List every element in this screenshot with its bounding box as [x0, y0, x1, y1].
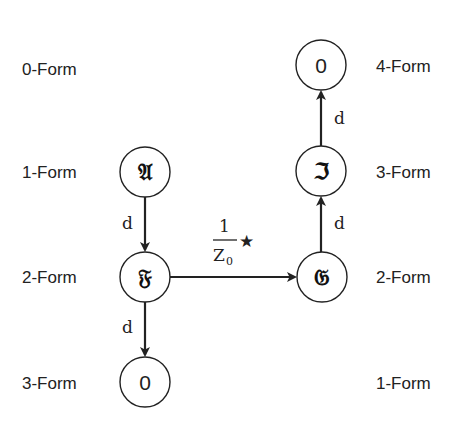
right-label-1-form: 1-Form — [376, 374, 431, 393]
fraction-subscript: 0 — [226, 255, 233, 268]
left-label-2-form: 2-Form — [22, 268, 77, 287]
node-zero-bottom-symbol: 0 — [139, 371, 151, 394]
node-zero-bottom: 0 — [120, 357, 170, 407]
right-label-4-form: 4-Form — [376, 57, 431, 76]
node-I: ℑ — [296, 146, 346, 196]
node-A: 𝔄 — [120, 147, 170, 197]
node-zero-top-symbol: 0 — [315, 54, 327, 77]
node-I-symbol: ℑ — [313, 158, 329, 184]
differential-forms-diagram: 0-Form 1-Form 2-Form 3-Form 4-Form 3-For… — [0, 0, 464, 425]
left-label-1-form: 1-Form — [22, 163, 77, 182]
edge-label-d-I-zero: d — [334, 108, 345, 128]
edge-label-d-G-I: d — [334, 213, 345, 233]
edge-label-d-A-F: d — [122, 213, 133, 233]
hodge-star-label: 1 Z 0 ★ — [213, 216, 254, 268]
node-F: 𝔉 — [120, 252, 170, 302]
fraction-denominator: Z — [213, 245, 225, 265]
node-G-symbol: 𝔊 — [314, 264, 330, 290]
node-A-symbol: 𝔄 — [138, 159, 153, 185]
hodge-star-icon: ★ — [239, 231, 254, 251]
right-label-2-form: 2-Form — [376, 268, 431, 287]
left-label-0-form: 0-Form — [22, 60, 77, 79]
node-zero-top: 0 — [296, 40, 346, 90]
fraction-numerator: 1 — [219, 216, 230, 236]
edge-label-d-F-zero: d — [122, 317, 133, 337]
right-label-3-form: 3-Form — [376, 163, 431, 182]
left-label-3-form: 3-Form — [22, 374, 77, 393]
node-G: 𝔊 — [297, 252, 347, 302]
node-F-symbol: 𝔉 — [138, 264, 153, 290]
